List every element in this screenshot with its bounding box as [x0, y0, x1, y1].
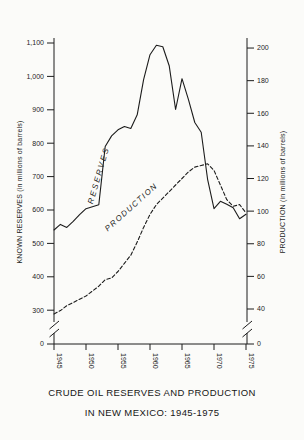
x-axis-tick-label: 1975 [248, 353, 255, 369]
right-axis-zero-label: 0 [257, 340, 261, 347]
chart-title-line-2: IN NEW MEXICO: 1945-1975 [0, 403, 304, 423]
x-axis-tick-label: 1955 [120, 353, 127, 369]
reserves-curve-label: RESERVES [86, 146, 111, 206]
left-axis-tick-label: 500 [32, 240, 44, 247]
right-axis-tick-label: 180 [257, 77, 269, 84]
chart-title: CRUDE OIL RESERVES AND PRODUCTION IN NEW… [0, 383, 304, 423]
chart-figure: 3004005006007008009001,0001,100040608010… [0, 0, 304, 440]
x-axis-tick-label: 1960 [152, 353, 159, 369]
left-axis-title: KNOWN RESERVES (in millions of barrels) [16, 120, 24, 263]
left-axis-tick-label: 1,000 [26, 73, 44, 80]
right-axis-tick-label: 100 [257, 208, 269, 215]
right-axis-tick-label: 120 [257, 175, 269, 182]
right-axis-tick-label: 60 [257, 273, 265, 280]
left-axis-zero-label: 0 [40, 340, 44, 347]
left-axis-tick-label: 1,100 [26, 39, 44, 46]
reserves-line [54, 45, 246, 230]
right-axis-title: PRODUCTION (in millions of barrels) [279, 131, 287, 254]
chart-generated-layer: 3004005006007008009001,0001,100040608010… [26, 38, 268, 369]
x-axis-tick-label: 1965 [184, 353, 191, 369]
right-axis-tick-label: 80 [257, 240, 265, 247]
right-axis-tick-label: 40 [257, 305, 265, 312]
right-axis-tick-label: 200 [257, 44, 269, 51]
production-curve-label: PRODUCTION [103, 181, 159, 233]
chart-title-line-1: CRUDE OIL RESERVES AND PRODUCTION [0, 383, 304, 403]
left-axis-tick-label: 600 [32, 206, 44, 213]
x-axis-tick-label: 1950 [88, 353, 95, 369]
x-axis-tick-label: 1945 [56, 353, 63, 369]
left-axis-tick-label: 900 [32, 106, 44, 113]
right-axis-tick-label: 160 [257, 110, 269, 117]
left-axis-tick-label: 800 [32, 140, 44, 147]
left-axis-tick-label: 300 [32, 307, 44, 314]
x-axis-tick-label: 1970 [216, 353, 223, 369]
chart-canvas: 3004005006007008009001,0001,100040608010… [0, 0, 304, 382]
right-axis-tick-label: 140 [257, 142, 269, 149]
left-axis-tick-label: 400 [32, 273, 44, 280]
left-axis-tick-label: 700 [32, 173, 44, 180]
